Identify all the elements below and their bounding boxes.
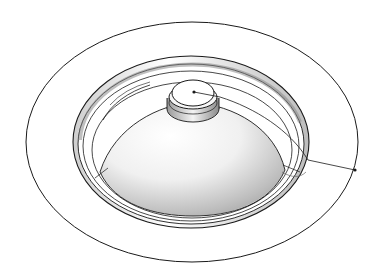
cad-viewport: Sink drain strainer flange with domed co… bbox=[0, 0, 380, 280]
drain-strainer-drawing bbox=[0, 0, 380, 280]
center-knob bbox=[167, 80, 219, 122]
